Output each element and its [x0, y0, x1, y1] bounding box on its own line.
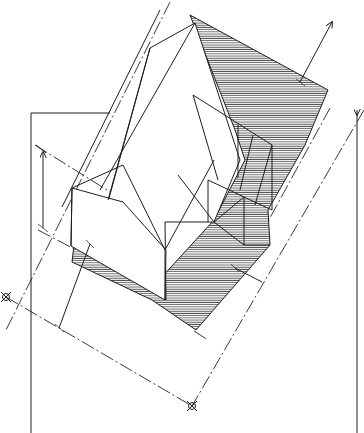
axis-marker-top-left: [36, 145, 46, 153]
architectural-drawing: [0, 0, 364, 433]
axis-marker-bottom: [187, 401, 197, 411]
axis-marker-left: [1, 292, 11, 302]
dimension-line-left-vertical: [38, 152, 48, 232]
